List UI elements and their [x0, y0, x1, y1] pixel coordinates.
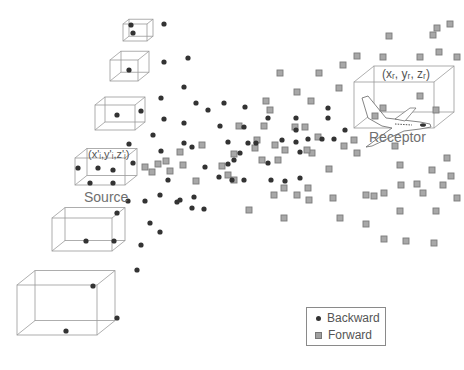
- backward-point: [319, 136, 324, 141]
- backward-point: [181, 140, 186, 145]
- backward-point: [111, 238, 116, 243]
- backward-point: [297, 149, 302, 154]
- forward-point: [167, 168, 173, 174]
- wireframe-box: [95, 97, 145, 130]
- forward-point: [447, 21, 453, 27]
- backward-point: [83, 238, 88, 243]
- backward-point: [279, 137, 284, 142]
- legend: Backward Forward: [306, 307, 386, 346]
- backward-point: [126, 141, 131, 146]
- diagram-canvas: [0, 0, 464, 370]
- backward-point: [63, 328, 68, 333]
- forward-point: [263, 98, 269, 104]
- forward-point: [304, 147, 310, 153]
- forward-point: [414, 181, 420, 187]
- receptor-label: Receptor: [369, 129, 426, 145]
- backward-point: [201, 206, 206, 211]
- backward-point: [231, 157, 236, 162]
- forward-point: [337, 215, 343, 221]
- legend-item-backward: Backward: [315, 310, 380, 326]
- forward-point: [302, 124, 308, 130]
- forward-point: [155, 161, 161, 167]
- forward-point: [397, 208, 403, 214]
- forward-point: [351, 137, 357, 143]
- forward-point: [180, 162, 186, 168]
- forward-point: [448, 173, 454, 179]
- backward-point: [157, 192, 162, 197]
- forward-point: [371, 193, 377, 199]
- backward-point: [158, 95, 163, 100]
- backward-point: [90, 283, 95, 288]
- backward-point: [205, 107, 210, 112]
- backward-point: [225, 161, 230, 166]
- backward-point: [282, 178, 287, 183]
- forward-square-icon: [315, 332, 322, 339]
- backward-point: [265, 160, 270, 165]
- backward-point: [157, 229, 162, 234]
- backward-point: [95, 165, 100, 170]
- backward-point: [134, 267, 139, 272]
- forward-point: [199, 142, 205, 148]
- forward-point: [380, 105, 386, 111]
- backward-point: [293, 139, 298, 144]
- backward-point: [265, 115, 270, 120]
- backward-point: [161, 116, 166, 121]
- forward-point: [252, 145, 258, 151]
- backward-point: [114, 112, 119, 117]
- backward-point: [147, 220, 152, 225]
- forward-point: [305, 185, 311, 191]
- forward-point: [236, 123, 242, 129]
- forward-point: [177, 149, 183, 155]
- backward-point: [138, 242, 143, 247]
- forward-point: [403, 238, 409, 244]
- forward-point: [431, 240, 437, 246]
- forward-point: [363, 192, 369, 198]
- wireframe-box: [52, 208, 125, 251]
- backward-point: [217, 123, 222, 128]
- backward-point: [126, 67, 131, 72]
- backward-point: [158, 148, 163, 153]
- forward-point: [193, 178, 199, 184]
- backward-dot-icon: [316, 316, 321, 321]
- backward-point: [241, 177, 246, 182]
- backward-point: [142, 198, 147, 203]
- forward-point: [363, 221, 369, 227]
- backward-point: [165, 177, 170, 182]
- forward-point: [271, 192, 277, 198]
- backward-point: [87, 180, 92, 185]
- forward-point: [341, 143, 347, 149]
- backward-point: [189, 144, 194, 149]
- forward-point: [454, 54, 460, 60]
- forward-point: [381, 190, 387, 196]
- backward-point: [114, 315, 119, 320]
- backward-point: [325, 115, 330, 120]
- forward-point: [272, 142, 278, 148]
- forward-point: [259, 157, 265, 163]
- backward-point: [128, 22, 133, 27]
- forward-point: [308, 98, 314, 104]
- forward-point: [386, 33, 392, 39]
- forward-point: [354, 53, 360, 59]
- forward-point: [261, 123, 267, 129]
- forward-point: [372, 113, 378, 119]
- forward-point: [294, 89, 300, 95]
- forward-point: [225, 172, 231, 178]
- forward-point: [454, 195, 460, 201]
- backward-point: [110, 167, 115, 172]
- backward-point: [191, 194, 196, 199]
- backward-point: [241, 124, 246, 129]
- backward-point: [253, 140, 258, 145]
- source-label: Source: [84, 189, 128, 205]
- forward-point: [294, 192, 300, 198]
- legend-label: Forward: [328, 328, 372, 342]
- forward-point: [433, 107, 439, 113]
- backward-point: [305, 136, 310, 141]
- forward-point: [219, 163, 225, 169]
- forward-point: [231, 151, 237, 157]
- forward-point: [420, 190, 426, 196]
- backward-point: [342, 127, 347, 132]
- forward-point: [417, 93, 423, 99]
- forward-point: [282, 147, 288, 153]
- forward-point: [398, 182, 404, 188]
- backward-point: [138, 108, 143, 113]
